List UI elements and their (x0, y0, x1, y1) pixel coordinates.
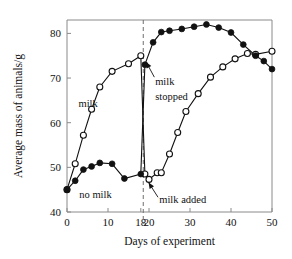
frame-border (67, 20, 272, 212)
x-tick-label: 30 (185, 216, 197, 228)
data-point (179, 26, 185, 32)
chart-svg: 0101820304050 4050607080 milkno milkmilk… (0, 0, 292, 259)
y-tick-label: 40 (50, 206, 62, 218)
annotation-milk-stopped-line1: milk (155, 76, 175, 87)
annotation-milk-stopped-line2: stopped (155, 91, 188, 102)
x-tick-label: 40 (226, 216, 238, 228)
data-point (138, 53, 144, 59)
data-point (228, 30, 234, 36)
data-point (167, 28, 173, 34)
data-point (216, 25, 222, 31)
annotation-no-milk-label: no milk (79, 189, 112, 200)
y-tick-label: 50 (50, 161, 62, 173)
y-tick-label: 60 (50, 117, 62, 129)
data-point (269, 66, 275, 72)
annotation-milk-added: milk added (159, 194, 207, 205)
data-point (269, 48, 275, 54)
data-point (122, 176, 128, 182)
data-point (232, 56, 238, 62)
x-axis-title: Days of experiment (124, 235, 215, 248)
data-point (261, 58, 267, 64)
data-point (244, 50, 250, 56)
data-point (97, 84, 103, 90)
data-point (138, 171, 144, 177)
y-axis-title: Average mass of animals/g (12, 54, 25, 178)
data-point (220, 64, 226, 70)
data-point (89, 164, 95, 170)
data-point (150, 39, 156, 45)
data-point (81, 167, 87, 173)
data-point (183, 109, 189, 115)
data-point (80, 132, 86, 138)
data-point (72, 161, 78, 167)
data-point (195, 91, 201, 97)
data-point (158, 29, 164, 35)
data-point (109, 68, 115, 74)
x-tick-label: 10 (103, 216, 115, 228)
data-point (204, 22, 210, 28)
x-axis-ticks: 0101820304050 (64, 208, 278, 228)
chart-figure: 0101820304050 4050607080 milkno milkmilk… (0, 0, 292, 259)
x-tick-label: 50 (267, 216, 279, 228)
data-point (72, 178, 78, 184)
data-point (240, 42, 246, 48)
data-point (253, 53, 259, 59)
data-point (175, 130, 181, 136)
data-point (64, 187, 70, 193)
y-tick-label: 70 (50, 72, 62, 84)
series-line-milk (67, 51, 272, 189)
data-point (97, 160, 103, 166)
data-point (126, 61, 132, 67)
annotation-milk-label: milk (78, 98, 98, 109)
y-tick-label: 80 (50, 27, 62, 39)
data-point (146, 176, 152, 182)
data-point (158, 170, 164, 176)
x-tick-label: 20 (144, 216, 156, 228)
plot-frame (67, 20, 272, 212)
data-point (167, 151, 173, 157)
x-tick-label: 0 (64, 216, 70, 228)
data-point (208, 74, 214, 80)
data-point (109, 161, 115, 167)
data-point (191, 24, 197, 30)
